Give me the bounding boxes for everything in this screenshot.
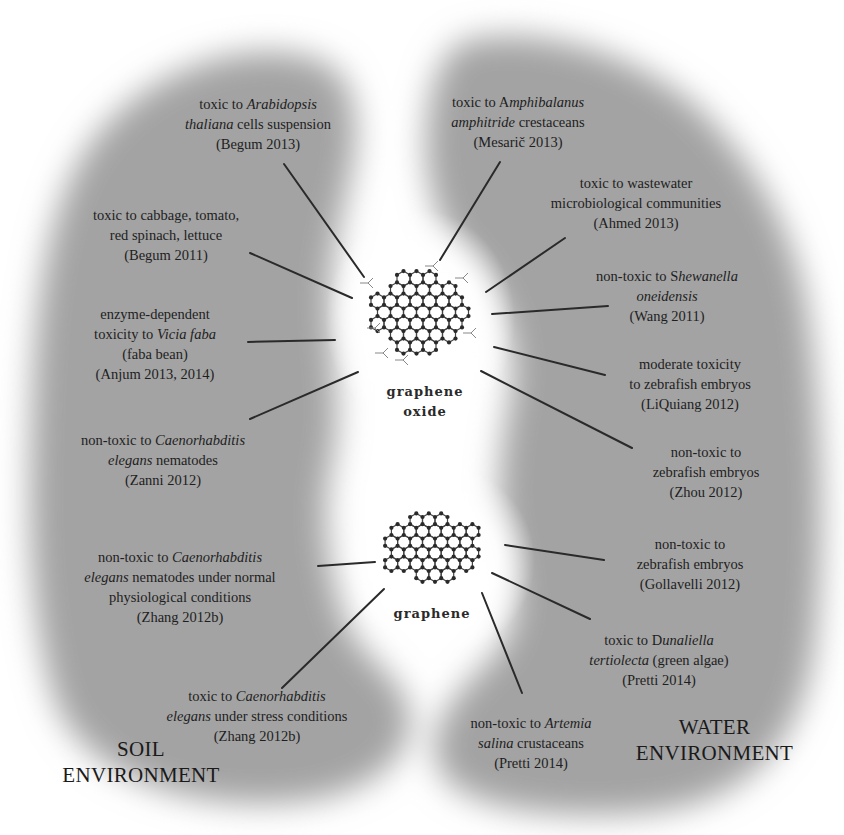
- finding-wang2011: non-toxic to Shewanellaoneidensis(Wang 2…: [596, 266, 738, 326]
- graphene-label-line1: graphene: [394, 604, 471, 624]
- finding-liquiang2012: moderate toxicityto zebrafish embryos(Li…: [629, 354, 751, 414]
- finding-line: tertiolecta (green algae): [589, 650, 728, 670]
- finding-line: (Ahmed 2013): [551, 213, 721, 233]
- finding-line: (Begum 2011): [93, 245, 239, 265]
- finding-zhang2012b_normal: non-toxic to Caenorhabditiselegans nemat…: [84, 547, 275, 627]
- finding-line: (Pretti 2014): [471, 753, 592, 773]
- soil-label-line1: SOIL: [56, 736, 226, 762]
- finding-line: red spinach, lettuce: [93, 225, 239, 245]
- water-environment-label: WATER ENVIRONMENT: [622, 714, 807, 766]
- soil-label-line2: ENVIRONMENT: [56, 762, 226, 788]
- water-label-line2: ENVIRONMENT: [622, 740, 807, 766]
- finding-line: to zebrafish embryos: [629, 374, 751, 394]
- water-label-line1: WATER: [622, 714, 807, 740]
- finding-line: non-toxic to: [653, 442, 760, 462]
- finding-line: physiological conditions: [84, 587, 275, 607]
- finding-zhou2012: non-toxic tozebrafish embryos(Zhou 2012): [653, 442, 760, 502]
- graphene-label: graphene: [394, 604, 471, 624]
- graphene-oxide-molecule-icon: [360, 261, 476, 365]
- finding-line: (Zhang 2012b): [84, 607, 275, 627]
- finding-gollavelli2012: non-toxic tozebrafish embryos(Gollavelli…: [637, 534, 744, 594]
- diagram-canvas: toxic to Arabidopsisthaliana cells suspe…: [0, 0, 844, 835]
- finding-line: oneidensis: [596, 286, 738, 306]
- finding-line: microbiological communities: [551, 193, 721, 213]
- finding-line: elegans nematodes under normal: [84, 567, 275, 587]
- finding-line: (Zhou 2012): [653, 482, 760, 502]
- finding-line: (Pretti 2014): [589, 670, 728, 690]
- finding-line: zebrafish embryos: [653, 462, 760, 482]
- graphene-oxide-label-line1: graphene: [387, 382, 464, 402]
- finding-line: zebrafish embryos: [637, 554, 744, 574]
- finding-line: non-toxic to Shewanella: [596, 266, 738, 286]
- finding-line: (Zanni 2012): [81, 470, 245, 490]
- finding-line: non-toxic to Caenorhabditis: [81, 430, 245, 450]
- finding-line: (Wang 2011): [596, 306, 738, 326]
- finding-line: (faba bean): [94, 344, 216, 364]
- finding-ahmed2013: toxic to wastewatermicrobiological commu…: [551, 173, 721, 233]
- finding-line: non-toxic to Artemia: [471, 713, 592, 733]
- finding-line: toxic to cabbage, tomato,: [93, 205, 239, 225]
- finding-anjum: enzyme-dependenttoxicity to Vicia faba(f…: [94, 304, 216, 384]
- finding-line: moderate toxicity: [629, 354, 751, 374]
- finding-line: toxic to Dunaliella: [589, 630, 728, 650]
- finding-line: enzyme-dependent: [94, 304, 216, 324]
- graphene-molecule-icon: [383, 511, 481, 584]
- finding-line: elegans nematodes: [81, 450, 245, 470]
- finding-line: (Gollavelli 2012): [637, 574, 744, 594]
- finding-line: toxic to wastewater: [551, 173, 721, 193]
- finding-pretti2014_artemia: non-toxic to Artemiasalina crustaceans(P…: [471, 713, 592, 773]
- finding-line: non-toxic to Caenorhabditis: [84, 547, 275, 567]
- finding-line: (Anjum 2013, 2014): [94, 364, 216, 384]
- finding-line: salina crustaceans: [471, 733, 592, 753]
- finding-line: non-toxic to: [637, 534, 744, 554]
- finding-pretti2014_dunaliella: toxic to Dunaliellatertiolecta (green al…: [589, 630, 728, 690]
- finding-mesaric2013: toxic to Amphibalanusamphitride crestace…: [451, 92, 584, 152]
- finding-line: elegans under stress conditions: [167, 706, 348, 726]
- finding-line: toxic to Caenorhabditis: [167, 686, 348, 706]
- finding-line: toxic to Amphibalanus: [451, 92, 584, 112]
- finding-zanni2012: non-toxic to Caenorhabditiselegans nemat…: [81, 430, 245, 490]
- soil-environment-label: SOIL ENVIRONMENT: [56, 736, 226, 788]
- graphene-oxide-label: graphene oxide: [387, 382, 464, 422]
- finding-line: amphitride crestaceans: [451, 112, 584, 132]
- finding-line: toxic to Arabidopsis: [185, 94, 331, 114]
- finding-line: (LiQuiang 2012): [629, 394, 751, 414]
- graphene-oxide-label-line2: oxide: [387, 402, 464, 422]
- finding-line: (Mesarič 2013): [451, 132, 584, 152]
- finding-line: thaliana cells suspension: [185, 114, 331, 134]
- finding-begum2013: toxic to Arabidopsisthaliana cells suspe…: [185, 94, 331, 154]
- finding-begum2011: toxic to cabbage, tomato,red spinach, le…: [93, 205, 239, 265]
- finding-line: (Begum 2013): [185, 134, 331, 154]
- finding-line: toxicity to Vicia faba: [94, 324, 216, 344]
